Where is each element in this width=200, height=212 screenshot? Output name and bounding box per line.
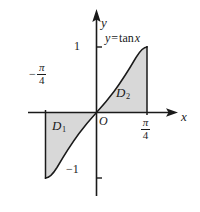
region-label-subscript: 2 (125, 92, 130, 101)
fraction-pi-over-4: π 4 (37, 62, 46, 86)
region-label-d2: D2 (116, 86, 130, 101)
region-label-subscript: 1 (61, 125, 66, 134)
curve-equation-label: y=tanx (105, 32, 140, 44)
equation-equals-sign: = (110, 31, 119, 45)
y-axis-label: y (101, 16, 107, 29)
fraction-numerator: π (38, 62, 46, 74)
x-tick-label-negative-pi-over-4: − π 4 (29, 62, 46, 86)
equation-function-name: tan (119, 31, 135, 45)
region-label-d1: D1 (52, 119, 66, 134)
fraction-numerator: π (142, 117, 150, 129)
plot-canvas (0, 0, 200, 212)
minus-sign: − (29, 68, 37, 80)
x-tick-label-pi-over-4: π 4 (141, 117, 150, 141)
x-axis-label: x (181, 110, 187, 123)
y-tick-label-negative-one: −1 (66, 163, 79, 175)
region-label-base: D (116, 85, 125, 100)
fraction-denominator: 4 (142, 130, 150, 142)
fraction-denominator: 4 (38, 75, 46, 87)
fraction-pi-over-4: π 4 (141, 117, 150, 141)
tan-x-figure: y x y=tanx O 1 −1 − π 4 π 4 D1 D2 (0, 0, 200, 212)
origin-label: O (99, 115, 108, 127)
y-tick-label-one: 1 (74, 40, 80, 52)
region-label-base: D (52, 118, 61, 133)
equation-variable: x (135, 31, 140, 45)
